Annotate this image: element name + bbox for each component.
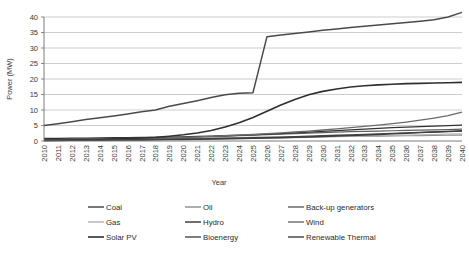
x-axis-tick-label: 2014 [96,145,105,162]
legend-item-wind[interactable]: Wind [288,218,324,227]
legend-label: Gas [106,218,120,227]
x-axis-tick-label: 2037 [416,145,425,162]
y-axis-tick-label: 40 [30,13,38,22]
x-axis-title: Year [211,178,227,187]
legend-label: Hydro [203,218,224,227]
x-axis-tick-label: 2029 [305,145,314,162]
x-axis-tick-label: 2025 [249,145,258,162]
x-axis-tick-label: 2019 [165,145,174,162]
x-axis-tick-label: 2011 [54,145,63,161]
chart-container: 0510152025303540 20102011201220132014201… [0,0,469,255]
x-axis-tick-label: 2026 [263,145,272,162]
x-axis-tick-label: 2038 [430,145,439,162]
legend-label: Oil [203,203,213,212]
x-axis-tick-label: 2028 [291,145,300,162]
y-axis-tick-label: 5 [34,121,38,130]
y-axis-title: Power (MW) [5,58,14,100]
x-axis-tick-label: 2030 [319,145,328,162]
x-axis-tick-label: 2033 [360,145,369,162]
x-axis-tick-labels: 2010201120122013201420152016201720182019… [40,145,467,162]
x-axis-tick-label: 2022 [207,145,216,162]
x-axis-tick-label: 2018 [151,145,160,162]
x-axis-tick-label: 2021 [193,145,202,162]
y-axis-tick-labels: 0510152025303540 [30,13,38,146]
x-axis-tick-label: 2013 [82,145,91,162]
x-axis-tick-label: 2031 [333,145,342,162]
legend-item-solar-pv[interactable]: Solar PV [88,233,138,242]
legend-item-oil[interactable]: Oil [185,203,213,212]
legend-label: Wind [306,218,324,227]
legend: CoalOilBack-up generatorsGasHydroWindSol… [88,203,376,242]
legend-item-back-up-generators[interactable]: Back-up generators [288,203,374,212]
y-axis-tick-label: 20 [30,75,38,84]
x-axis-tick-label: 2024 [235,145,244,162]
y-axis-tick-label: 15 [30,90,38,99]
y-axis-tick-label: 25 [30,59,38,68]
x-axis-tick-label: 2032 [347,145,356,162]
legend-label: Bioenergy [203,233,238,242]
x-axis-tick-label: 2027 [277,145,286,162]
legend-item-bioenergy[interactable]: Bioenergy [185,233,238,242]
x-axis-tick-label: 2023 [221,145,230,162]
x-axis-tick-label: 2036 [402,145,411,162]
x-axis-tick-label: 2035 [388,145,397,162]
x-axis-tick-label: 2015 [110,145,119,162]
y-axis-tick-label: 35 [30,28,38,37]
y-axis-tick-label: 30 [30,44,38,53]
legend-item-coal[interactable]: Coal [88,203,122,212]
legend-item-hydro[interactable]: Hydro [185,218,224,227]
x-axis-tick-label: 2012 [68,145,77,162]
series-line-coal [44,12,462,125]
x-axis-tick-label: 2034 [374,145,383,162]
series-line-hydro [44,125,462,138]
x-axis-tick-label: 2016 [124,145,133,162]
y-axis-tick-label: 0 [34,137,38,146]
legend-label: Back-up generators [306,203,374,212]
x-axis-tick-label: 2010 [40,145,49,162]
x-axis-tick-label: 2039 [444,145,453,162]
line-chart: 0510152025303540 20102011201220132014201… [0,0,469,255]
legend-label: Coal [106,203,122,212]
x-axis-tick-label: 2020 [179,145,188,162]
y-axis-tick-label: 10 [30,106,38,115]
legend-item-gas[interactable]: Gas [88,218,120,227]
series-lines-group [44,12,462,140]
x-axis-tick-label: 2040 [458,145,467,162]
x-axis-tick-label: 2017 [138,145,147,162]
legend-label: Renewable Thermal [306,233,376,242]
legend-label: Solar PV [106,233,138,242]
legend-item-renewable-thermal[interactable]: Renewable Thermal [288,233,376,242]
